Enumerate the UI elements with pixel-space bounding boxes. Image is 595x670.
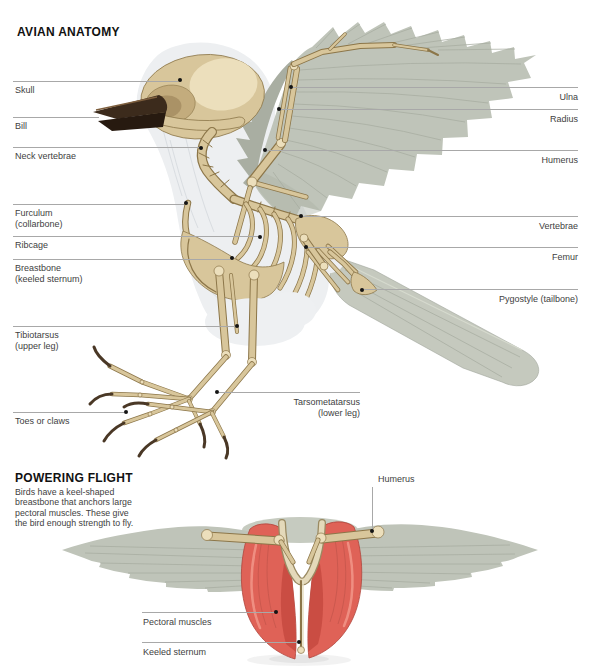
label-pygostyle: Pygostyle (tailbone) <box>499 294 578 305</box>
leader-dot-keeled-sternum <box>297 640 301 644</box>
avian-anatomy-title: AVIAN ANATOMY <box>17 25 120 39</box>
leader-line-flight-humerus <box>372 487 373 529</box>
leader-line-femur <box>308 247 578 248</box>
leader-line-pectoral-muscles <box>142 612 274 613</box>
leader-dot-neck-vertebrae <box>199 146 203 150</box>
label-tibiotarsus: Tibiotarsus (upper leg) <box>15 330 59 352</box>
label-neck-vertebrae: Neck vertebrae <box>15 151 76 162</box>
leader-dot-humerus <box>263 148 267 152</box>
label-toes: Toes or claws <box>15 416 70 427</box>
label-furculum: Furculum (collarbone) <box>15 208 63 230</box>
leader-dot-femur <box>304 245 308 249</box>
leader-dot-radius <box>277 107 281 111</box>
leader-dot-toes <box>124 410 128 414</box>
leader-dot-ulna <box>289 85 293 89</box>
leader-dot-pectoral-muscles <box>274 610 278 614</box>
label-tarsometatarsus: Tarsometatarsus (lower leg) <box>293 397 360 419</box>
bill-shape <box>93 95 167 131</box>
tail-feathers <box>330 255 539 386</box>
label-ulna: Ulna <box>559 92 578 103</box>
leader-line-tarsometatarsus <box>219 392 360 393</box>
leader-dot-skull <box>178 78 182 82</box>
label-vertebrae: Vertebrae <box>539 221 578 232</box>
leader-line-vertebrae <box>303 216 578 217</box>
leader-dot-breastbone <box>230 256 234 260</box>
leader-dot-ribcage <box>258 235 262 239</box>
label-skull: Skull <box>15 85 35 96</box>
leader-line-keeled-sternum <box>142 642 297 643</box>
leader-line-furculum <box>13 204 184 205</box>
leader-line-pygostyle <box>364 289 578 290</box>
leader-line-breastbone <box>13 259 230 260</box>
powering-flight-title: POWERING FLIGHT <box>15 471 133 485</box>
leader-line-neck-vertebrae <box>13 147 199 148</box>
label-femur: Femur <box>552 252 578 263</box>
label-keeled-sternum: Keeled sternum <box>143 647 206 658</box>
leader-dot-tibiotarsus <box>235 324 239 328</box>
powering-flight-description: Birds have a keel-shaped breastbone that… <box>15 487 133 529</box>
leader-line-radius <box>281 109 578 110</box>
leader-line-skull <box>13 81 178 82</box>
leader-dot-flight-humerus <box>370 529 374 533</box>
label-ribcage: Ribcage <box>15 240 48 251</box>
leader-line-ribcage <box>13 236 258 237</box>
label-humerus: Humerus <box>541 155 578 166</box>
label-bill: Bill <box>15 121 27 132</box>
avian-anatomy-infographic: AVIAN ANATOMY Skull Bill Neck vertebrae … <box>0 0 595 670</box>
label-pectoral-muscles: Pectoral muscles <box>143 617 212 628</box>
leader-line-bill <box>13 117 99 118</box>
leader-dot-pygostyle <box>360 288 364 292</box>
label-flight-humerus: Humerus <box>378 474 415 485</box>
leader-line-tibiotarsus <box>13 326 235 327</box>
leader-dot-tarsometatarsus <box>215 390 219 394</box>
toes-claws <box>90 347 228 458</box>
bird-anatomy-illustration <box>0 0 595 670</box>
leader-dot-vertebrae <box>299 214 303 218</box>
label-breastbone: Breastbone (keeled sternum) <box>15 263 83 285</box>
leader-line-humerus <box>267 150 578 151</box>
label-radius: Radius <box>550 114 578 125</box>
leader-line-ulna <box>293 87 578 88</box>
leader-line-toes <box>13 412 124 413</box>
leader-dot-furculum <box>184 201 188 205</box>
